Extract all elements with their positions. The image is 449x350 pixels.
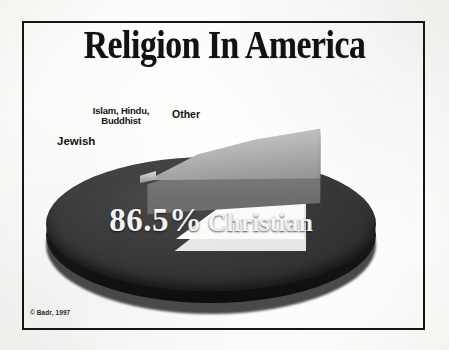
christian-percentage: 86.5%: [109, 202, 202, 238]
pie-chart: Islam, Hindu, Buddhist Other Jewish 86.5…: [22, 21, 425, 330]
label-islam-hindu-buddhist: Islam, Hindu, Buddhist: [76, 106, 166, 126]
copyright-credit: © Badr, 1997: [30, 309, 70, 316]
christian-word: Christian: [207, 208, 312, 237]
label-christian-slice: 86.5%Christian: [46, 202, 376, 239]
label-other: Other: [172, 109, 200, 120]
label-jewish: Jewish: [57, 135, 95, 147]
